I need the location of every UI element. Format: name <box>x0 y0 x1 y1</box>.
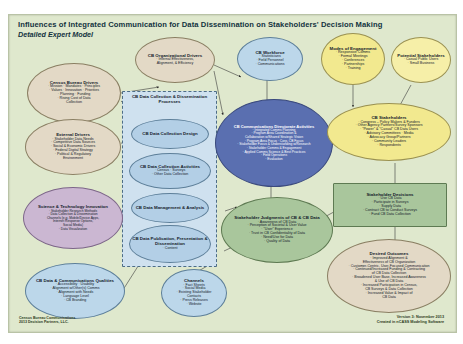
node-item: · Training <box>346 67 361 71</box>
footer-software: Created in nCASS Modeling Software <box>377 320 444 325</box>
node-cb-data-collection-activities[interactable]: CB Data Collection Activities · Census ·… <box>129 153 211 189</box>
node-item: · Small Business <box>408 62 435 66</box>
node-item: · Communications <box>256 63 285 67</box>
diagram-subtitle: Detailed Expert Model <box>18 30 93 39</box>
node-item: CB Data <box>382 296 396 300</box>
node-item: Alignment, & Efficiency <box>157 62 194 66</box>
node-item: · Content <box>163 247 178 251</box>
node-item: · Respondents <box>377 144 400 148</box>
node-cb-data-management-analysis[interactable]: CB Data Management & Analysis <box>131 193 209 223</box>
node-cb-workforce[interactable]: CB Workforce · Statisticians · Field Per… <box>237 37 303 81</box>
node-census-bureau-drivers[interactable]: Census Bureau Drivers · Mission · Mandat… <box>27 63 121 123</box>
node-item: · Data Visualization <box>59 228 87 232</box>
node-title: CB Data Collection Design <box>142 132 197 137</box>
node-item: · Website <box>186 303 201 307</box>
node-title: CB Data Management & Analysis <box>136 206 205 211</box>
node-item: · Other Data Collection <box>152 173 189 177</box>
footer-left: Census Bureau Communications 2013 Decisi… <box>19 316 76 325</box>
node-stakeholder-decisions[interactable]: Stakeholder Decisions · Use CB Data · Pa… <box>333 183 447 227</box>
process-panel-label: CB Data Collection & Dissemination Proce… <box>123 95 216 105</box>
node-cb-data-communications-qualities[interactable]: CB Data & Communications Qualities · Acc… <box>25 263 125 319</box>
node-item: · Fund CB Data Collection <box>369 213 411 217</box>
node-item: · Quality of Data <box>264 240 290 244</box>
node-cb-organizational-drivers[interactable]: CB Organizational Drivers · Internal Eff… <box>135 37 215 83</box>
node-modes-of-engagement[interactable]: Modes of Engagement · Responsive Comms ·… <box>321 33 385 85</box>
node-cb-data-publication[interactable]: CB Data Publication, Presentation & Diss… <box>129 225 211 263</box>
node-science-technology-innovation[interactable]: Science & Technology Innovation · Stakeh… <box>23 187 123 249</box>
node-item: Environment <box>63 157 83 161</box>
node-cb-stakeholders[interactable]: CB Stakeholders · Congress – Policy Make… <box>327 103 451 161</box>
footer-left-line2: 2013 Decision Partners, LLC. <box>19 320 76 325</box>
node-item: · CB Branding <box>64 299 87 303</box>
node-item: Collection <box>66 101 82 105</box>
diagram-page: Influences of Integrated Communication f… <box>0 0 463 344</box>
node-cb-communications-directorate-activities[interactable]: CB Communications Directorate Activities… <box>215 99 333 187</box>
diagram-title: Influences of Integrated Communication f… <box>18 20 438 29</box>
node-stakeholder-judgments[interactable]: Stakeholder Judgments of CB & CB Data · … <box>221 197 333 263</box>
node-desired-outcomes[interactable]: Desired Outcomes · Improved Alignment & … <box>327 239 451 313</box>
node-potential-stakeholders[interactable]: Potential Stakeholders · Casual Public U… <box>391 37 451 83</box>
node-external-drivers[interactable]: External Drivers · Stakeholder Data Need… <box>25 119 121 175</box>
footer-right: Version 3: November 2013 Created in nCAS… <box>377 315 444 325</box>
node-channels[interactable]: Channels · Fact Sheets · Social Media · … <box>161 269 227 317</box>
node-item: · Evaluation <box>265 158 282 162</box>
diagram-canvas: Influences of Integrated Communication f… <box>8 14 457 333</box>
node-cb-data-collection-design[interactable]: CB Data Collection Design <box>131 119 209 149</box>
